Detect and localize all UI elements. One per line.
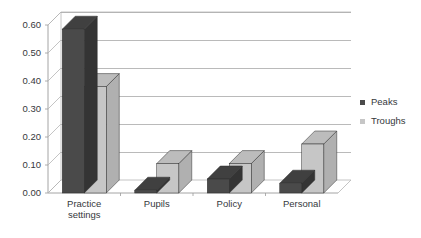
y-axis-tick-label: 0.00 <box>23 187 42 198</box>
y-axis-tick-label: 0.10 <box>23 159 42 170</box>
bar-chart-figure: 0.000.100.200.300.400.500.60 Practiceset… <box>0 0 421 238</box>
x-axis-category-label: Practice <box>67 198 101 209</box>
y-tick-depth-connector <box>48 40 61 53</box>
y-tick-depth-connector <box>48 152 61 165</box>
y-axis-tick-label: 0.60 <box>23 19 42 30</box>
legend: PeaksTroughs <box>360 96 406 126</box>
bar-front-face <box>280 183 302 193</box>
x-axis-category-label: Personal <box>283 198 321 209</box>
legend-label-peaks: Peaks <box>371 96 398 107</box>
y-tick-depth-connector <box>48 96 61 109</box>
x-axis-labels-group: PracticesettingsPupilsPolicyPersonal <box>67 193 320 220</box>
legend-swatch-peaks <box>360 100 365 105</box>
x-axis-category-label: Pupils <box>144 198 170 209</box>
bar-side-face <box>84 16 97 193</box>
y-axis-tick-label: 0.40 <box>23 75 42 86</box>
y-tick-depth-connector <box>48 124 61 137</box>
bar-front-face <box>207 179 229 193</box>
y-axis-tick-label: 0.50 <box>23 47 42 58</box>
bar-front-face <box>135 190 157 193</box>
y-tick-depth-connector <box>48 12 61 25</box>
bars-group <box>62 16 337 193</box>
y-axis-ticks-group: 0.000.100.200.300.400.500.60 <box>23 12 62 198</box>
y-tick-depth-connector <box>48 68 61 81</box>
x-axis-category-label-line2: settings <box>68 209 101 220</box>
bar-front-face <box>62 29 84 193</box>
x-axis-category-label: Policy <box>217 198 243 209</box>
floor-right-depth-edge <box>338 180 351 193</box>
legend-swatch-troughs <box>360 119 365 124</box>
legend-label-troughs: Troughs <box>371 115 406 126</box>
y-axis-tick-label: 0.20 <box>23 131 42 142</box>
y-axis-tick-label: 0.30 <box>23 103 42 114</box>
y-tick-depth-connector <box>48 180 61 193</box>
chart-canvas: 0.000.100.200.300.400.500.60 Practiceset… <box>0 0 421 238</box>
bar-practice-settings-peaks <box>62 16 97 193</box>
bar-side-face <box>106 74 119 193</box>
